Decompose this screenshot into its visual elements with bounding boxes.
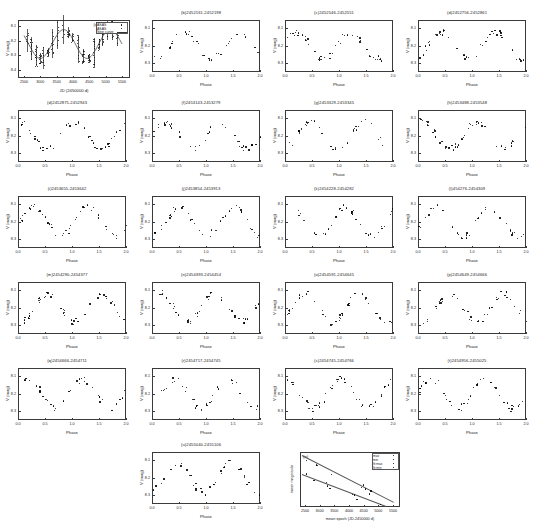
y-tick-label: 8.3 — [138, 323, 150, 327]
data-point — [221, 297, 222, 298]
y-tick-label: 8.1 — [138, 116, 150, 120]
plot-frame — [18, 368, 126, 420]
y-tick-mark — [18, 411, 21, 412]
data-point — [439, 142, 440, 143]
data-point — [187, 322, 188, 323]
data-point — [78, 121, 79, 122]
data-point — [354, 128, 355, 129]
x-tick-label: 1.0 — [331, 74, 347, 78]
light-curve-panel: (i)2453655-2453642V (mag)Phase0.00.51.01… — [2, 184, 132, 264]
x-tick-mark — [312, 246, 313, 249]
x-tick-label: 2.0 — [252, 336, 268, 340]
data-point — [500, 35, 501, 36]
x-tick-label: 0.5 — [437, 164, 453, 168]
x-axis-label: Phase — [285, 172, 393, 177]
y-tick-label: 8.2 — [4, 220, 16, 224]
data-point — [24, 317, 25, 318]
data-point — [155, 485, 156, 486]
data-point — [381, 60, 382, 61]
x-tick-mark — [152, 418, 153, 421]
data-point — [174, 211, 175, 212]
data-point-max — [363, 484, 364, 485]
x-axis-label: mean epoch (JD-2450000 d) — [300, 517, 400, 521]
data-point — [456, 48, 457, 49]
data-point — [453, 149, 454, 150]
x-tick-mark — [260, 332, 261, 335]
plot-frame — [418, 368, 526, 420]
data-point — [240, 209, 241, 210]
data-point — [42, 147, 43, 148]
x-tick-label: 1.5 — [358, 422, 374, 426]
plot-frame — [418, 196, 526, 248]
data-point — [221, 299, 222, 300]
panel-title: (r)2454717-2454745 — [136, 358, 266, 364]
y-tick-label: 8.2 — [4, 134, 16, 138]
x-tick-mark — [285, 160, 286, 163]
data-point — [169, 303, 170, 304]
data-point — [153, 489, 154, 490]
x-tick-mark — [126, 418, 127, 421]
x-tick-label: 2.0 — [252, 250, 268, 254]
x-tick-mark — [418, 332, 419, 335]
data-point — [470, 316, 471, 317]
x-tick-mark — [152, 160, 153, 163]
data-point — [82, 206, 83, 207]
data-point — [196, 41, 197, 42]
data-point — [329, 58, 330, 59]
data-point — [179, 131, 180, 132]
data-point — [359, 41, 360, 42]
plot-frame — [285, 196, 393, 248]
data-point — [446, 399, 447, 400]
x-tick-label: 1.0 — [464, 336, 480, 340]
x-tick-mark — [472, 246, 473, 249]
x-tick-mark — [18, 160, 19, 163]
data-point — [355, 219, 356, 220]
data-point — [245, 146, 246, 147]
data-point — [359, 399, 360, 400]
data-point — [39, 297, 40, 298]
x-tick-label: 1.0 — [64, 422, 80, 426]
data-point — [119, 130, 120, 131]
y-tick-mark — [418, 411, 421, 412]
data-point — [464, 310, 465, 311]
data-point — [510, 231, 511, 232]
data-point — [496, 299, 497, 300]
data-point — [325, 233, 326, 234]
x-tick-mark — [366, 246, 367, 249]
x-tick-mark — [45, 332, 46, 335]
x-tick-label: 2.0 — [518, 250, 534, 254]
y-tick-label: 8.1 — [404, 288, 416, 292]
plot-frame — [418, 282, 526, 334]
data-point — [50, 145, 51, 146]
data-point — [523, 59, 524, 60]
y-tick-label: 8.1 — [138, 288, 150, 292]
data-point — [228, 460, 229, 461]
panel-title: (s)2454745-2454766 — [269, 358, 399, 364]
data-point — [34, 138, 35, 139]
data-point — [108, 146, 109, 147]
x-tick-label: 0.0 — [277, 422, 293, 426]
data-point — [68, 233, 69, 234]
y-tick-mark — [418, 394, 421, 395]
data-point — [195, 483, 196, 484]
data-point-min — [327, 485, 328, 486]
x-axis-label: Phase — [152, 344, 260, 349]
data-point — [182, 206, 183, 207]
data-point — [98, 214, 99, 215]
x-tick-mark — [472, 160, 473, 163]
x-tick-mark — [206, 502, 207, 505]
data-point — [445, 146, 446, 147]
data-point — [53, 148, 54, 149]
x-tick-mark — [445, 246, 446, 249]
x-tick-label: 0.5 — [37, 336, 53, 340]
x-tick-mark — [393, 505, 394, 508]
data-point — [319, 402, 320, 403]
panel-title: (d)2452875-2452943 — [2, 100, 132, 106]
data-point — [351, 211, 352, 212]
data-point — [461, 238, 462, 239]
light-curve-panel: (g)2453329-2453345V (mag)Phase0.00.51.01… — [269, 98, 399, 178]
x-tick-label: 1.5 — [225, 422, 241, 426]
x-tick-mark — [526, 160, 527, 163]
data-point — [24, 319, 25, 320]
data-point — [217, 386, 218, 387]
